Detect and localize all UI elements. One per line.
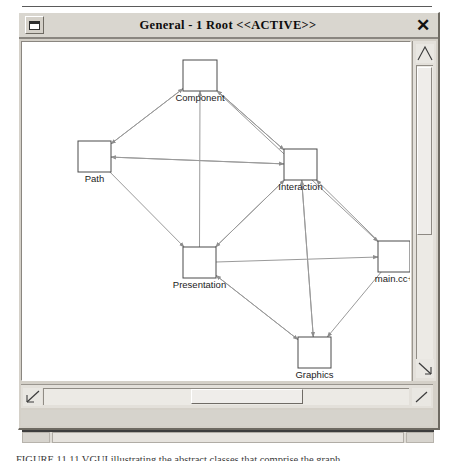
scroll-right-arrow-icon[interactable] xyxy=(412,388,431,406)
graph-edge xyxy=(111,89,183,144)
graph-node-box[interactable] xyxy=(183,247,216,278)
graph-svg: ComponentPathInteractionPresentationmain… xyxy=(22,42,410,380)
graph-node-label: Interaction xyxy=(278,181,322,192)
graph-edge xyxy=(111,157,284,164)
window-status-strip xyxy=(21,410,433,426)
graph-node-box[interactable] xyxy=(284,149,317,180)
graph-node-label: main.cc+ xyxy=(375,273,410,284)
window-titlebar: General - 1 Root <<ACTIVE>> ✕ xyxy=(19,13,438,39)
page-scrollbar-left-end[interactable] xyxy=(22,432,50,443)
screenshot-root: General - 1 Root <<ACTIVE>> ✕ ComponentP… xyxy=(0,0,454,461)
graph-edge xyxy=(216,275,298,339)
figure-caption: FIGURE 11.11 VGUI illustrating the abstr… xyxy=(16,454,454,461)
graph-node[interactable]: main.cc+ xyxy=(375,241,410,284)
graph-edge xyxy=(327,272,381,337)
horizontal-scroll-thumb[interactable] xyxy=(191,389,303,404)
graph-edge xyxy=(216,257,378,262)
graph-node[interactable]: Component xyxy=(175,60,224,103)
graph-edge xyxy=(216,180,285,247)
graph-node-box[interactable] xyxy=(298,337,331,368)
page-scrollbar-right-end[interactable] xyxy=(406,432,434,443)
graph-edge-layer xyxy=(110,89,381,340)
graph-node-box[interactable] xyxy=(183,60,217,91)
graph-edge xyxy=(200,91,201,247)
horizontal-scrollbar[interactable] xyxy=(21,384,433,408)
window-menu-icon xyxy=(29,21,40,30)
graph-edge xyxy=(302,180,314,337)
graph-edge xyxy=(217,91,284,150)
graph-node-label: Graphics xyxy=(295,369,333,380)
window-title: General - 1 Root <<ACTIVE>> xyxy=(44,18,412,33)
close-button[interactable]: ✕ xyxy=(412,14,434,36)
graph-node-label: Path xyxy=(85,173,105,184)
scroll-down-arrow-icon[interactable] xyxy=(416,359,434,378)
vertical-scrollbar[interactable] xyxy=(412,41,436,381)
graph-node-box[interactable] xyxy=(78,141,111,172)
graph-edge xyxy=(110,172,184,247)
graph-node[interactable]: Presentation xyxy=(173,247,226,290)
vertical-scroll-thumb[interactable] xyxy=(417,67,432,235)
page-scrollbar[interactable] xyxy=(22,430,434,443)
graph-node[interactable]: Graphics xyxy=(295,337,333,380)
graph-node-box[interactable] xyxy=(378,241,410,272)
graph-canvas[interactable]: ComponentPathInteractionPresentationmain… xyxy=(21,41,411,381)
scroll-up-arrow-icon[interactable] xyxy=(416,44,434,63)
page-top-rule xyxy=(22,6,432,7)
graph-node[interactable]: Interaction xyxy=(278,149,322,192)
scroll-left-arrow-icon[interactable] xyxy=(23,388,42,406)
application-window: General - 1 Root <<ACTIVE>> ✕ ComponentP… xyxy=(18,12,440,430)
graph-node-label: Component xyxy=(175,92,224,103)
graph-edge xyxy=(316,180,378,241)
graph-node-label: Presentation xyxy=(173,279,226,290)
page-scrollbar-track[interactable] xyxy=(52,432,404,443)
graph-node[interactable]: Path xyxy=(78,141,111,184)
window-menu-button[interactable] xyxy=(25,16,44,34)
